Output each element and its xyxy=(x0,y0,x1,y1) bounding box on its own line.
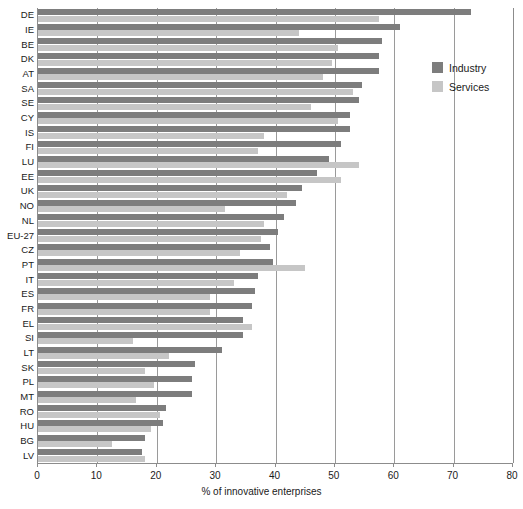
bar-industry xyxy=(38,156,329,162)
x-axis-tick xyxy=(156,463,157,467)
bar-industry xyxy=(38,38,382,44)
bar-row xyxy=(38,125,512,140)
gridline xyxy=(513,8,514,463)
x-axis-tick xyxy=(37,463,38,467)
bar-chart: DEIEBEDKATSASECYISFILUEEUKNONLEU-27CZPTI… xyxy=(0,0,523,509)
category-label: MT xyxy=(20,391,34,402)
x-axis-tick-label: 50 xyxy=(328,470,339,481)
bar-row xyxy=(38,8,512,23)
bar-industry xyxy=(38,303,252,309)
bar-services xyxy=(38,412,160,418)
bar-row xyxy=(38,213,512,228)
bar-row xyxy=(38,390,512,405)
bar-industry xyxy=(38,24,400,30)
bar-row xyxy=(38,111,512,126)
category-label: NO xyxy=(20,200,34,211)
bar-industry xyxy=(38,376,192,382)
category-label: CZ xyxy=(21,244,34,255)
bar-row xyxy=(38,331,512,346)
bar-industry xyxy=(38,244,270,250)
bar-services xyxy=(38,353,169,359)
bar-industry xyxy=(38,259,273,265)
bar-services xyxy=(38,104,311,110)
x-axis-tick-label: 40 xyxy=(269,470,280,481)
bar-row xyxy=(38,272,512,287)
bar-services xyxy=(38,338,133,344)
bar-industry xyxy=(38,317,243,323)
bar-services xyxy=(38,192,287,198)
category-label: ES xyxy=(21,288,34,299)
x-axis-tick xyxy=(96,463,97,467)
category-label: IE xyxy=(25,24,34,35)
bar-services xyxy=(38,441,112,447)
bar-row xyxy=(38,448,512,463)
bar-services xyxy=(38,60,332,66)
bar-services xyxy=(38,309,210,315)
x-axis-tick xyxy=(453,463,454,467)
bar-services xyxy=(38,456,145,462)
bar-services xyxy=(38,74,323,80)
bar-row xyxy=(38,169,512,184)
category-label: BE xyxy=(21,39,34,50)
x-axis-tick xyxy=(275,463,276,467)
bar-industry xyxy=(38,97,359,103)
bar-row xyxy=(38,199,512,214)
category-label: EU-27 xyxy=(7,230,34,241)
bar-industry xyxy=(38,112,350,118)
bar-industry xyxy=(38,126,350,132)
bar-row xyxy=(38,228,512,243)
bar-services xyxy=(38,206,225,212)
category-label: LV xyxy=(23,450,34,461)
bar-services xyxy=(38,368,145,374)
bar-industry xyxy=(38,214,284,220)
legend-swatch-industry-icon xyxy=(432,62,443,73)
category-label: BG xyxy=(20,435,34,446)
bar-row xyxy=(38,258,512,273)
bar-services xyxy=(38,133,264,139)
bar-services xyxy=(38,45,338,51)
bar-row xyxy=(38,360,512,375)
x-axis-tick xyxy=(512,463,513,467)
bar-services xyxy=(38,324,252,330)
bar-row xyxy=(38,316,512,331)
category-label: FI xyxy=(26,141,34,152)
category-label: NL xyxy=(22,215,34,226)
bar-row xyxy=(38,302,512,317)
bar-row xyxy=(38,346,512,361)
category-label: SK xyxy=(21,362,34,373)
bar-services xyxy=(38,162,359,168)
bar-services xyxy=(38,118,338,124)
category-label: LT xyxy=(24,347,34,358)
bar-industry xyxy=(38,420,163,426)
category-label: DE xyxy=(21,9,34,20)
category-label: SA xyxy=(21,83,34,94)
bar-industry xyxy=(38,53,379,59)
category-label: IS xyxy=(25,127,34,138)
category-label: SE xyxy=(21,97,34,108)
legend: Industry Services xyxy=(432,60,489,98)
bar-industry xyxy=(38,347,222,353)
bar-services xyxy=(38,426,151,432)
bar-industry xyxy=(38,9,471,15)
bar-row xyxy=(38,155,512,170)
category-label: CY xyxy=(21,112,34,123)
category-label: AT xyxy=(23,68,34,79)
bar-services xyxy=(38,294,210,300)
x-axis-tick-label: 10 xyxy=(91,470,102,481)
bar-industry xyxy=(38,68,379,74)
bar-services xyxy=(38,177,341,183)
x-axis-tick xyxy=(215,463,216,467)
bar-services xyxy=(38,148,258,154)
bar-row xyxy=(38,96,512,111)
bar-industry xyxy=(38,141,341,147)
legend-label-industry: Industry xyxy=(449,62,486,74)
bar-row xyxy=(38,23,512,38)
category-label: RO xyxy=(20,406,34,417)
bar-services xyxy=(38,30,299,36)
bar-industry xyxy=(38,332,243,338)
bar-industry xyxy=(38,435,145,441)
category-label: LU xyxy=(22,156,34,167)
bar-row xyxy=(38,37,512,52)
bar-row xyxy=(38,243,512,258)
bar-industry xyxy=(38,273,258,279)
